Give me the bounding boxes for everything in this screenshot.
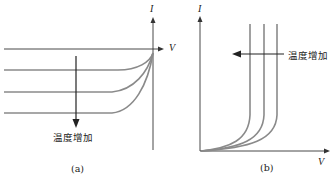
diagram-root: I V 温度增加 (a) I V 温度增加 (b) xyxy=(0,0,332,178)
diagram-canvas xyxy=(0,0,332,178)
figure-b-caption: (b) xyxy=(260,162,274,173)
figure-a-caption: (a) xyxy=(71,163,84,174)
figure-a-y-arrowhead xyxy=(151,17,156,23)
figure-b-x-axis-label: V xyxy=(318,156,324,167)
figure-b-temperature-arrowhead xyxy=(232,51,241,58)
figure-b-axes xyxy=(200,20,326,151)
figure-a-y-axis-label: I xyxy=(150,3,153,14)
figure-a-temperature-label: 温度增加 xyxy=(53,130,93,144)
figure-b-temperature-label: 温度增加 xyxy=(288,48,328,62)
figure-a-x-axis-label: V xyxy=(169,42,175,53)
figure-a-x-arrowhead xyxy=(158,47,164,52)
figure-a-curves xyxy=(4,53,153,113)
figure-a-temperature-arrowhead xyxy=(73,119,80,128)
figure-b-y-arrowhead xyxy=(198,16,203,22)
figure-b-x-arrowhead xyxy=(324,149,330,154)
figure-b-curves xyxy=(201,24,277,151)
figure-b-y-axis-label: I xyxy=(198,3,201,14)
